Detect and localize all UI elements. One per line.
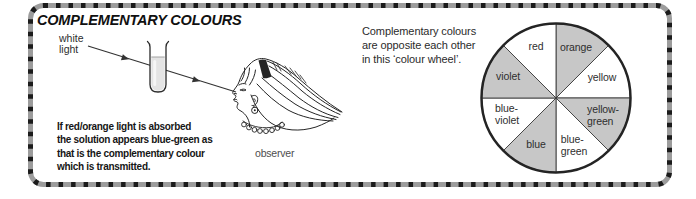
observer-face-illustration	[233, 59, 342, 134]
wheel-label-blue-violet: blue- violet	[495, 103, 519, 126]
caption-text: If red/orange light is absorbed the solu…	[57, 120, 212, 174]
wheel-label-blue-green: blue- green	[561, 134, 587, 157]
wheel-label-violet: violet	[496, 71, 520, 83]
wheel-label-red: red	[529, 41, 544, 53]
wheel-label-blue: blue	[526, 139, 545, 151]
necklace	[242, 121, 285, 134]
observer-label: observer	[255, 147, 294, 159]
wheel-label-yellow-green: yellow- green	[587, 104, 619, 127]
wheel-note: Complementary colours are opposite each …	[362, 25, 476, 66]
wheel-label-orange: orange	[560, 42, 592, 54]
test-tube-icon	[148, 42, 169, 93]
wheel-label-yellow: yellow	[588, 72, 617, 84]
colour-wheel	[478, 20, 634, 176]
figure-panel: COMPLEMENTARY COLOURS white light	[0, 0, 696, 199]
